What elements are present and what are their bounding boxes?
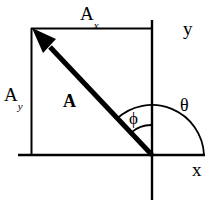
label-x-axis: x bbox=[192, 160, 202, 179]
label-component-x-base: A bbox=[80, 3, 94, 24]
label-component-y-subscript: y bbox=[18, 100, 23, 112]
label-component-y: Ay bbox=[4, 85, 23, 108]
label-y-axis: y bbox=[183, 19, 193, 38]
vector-diagram: Ax Ay A y x ϕ θ bbox=[0, 0, 218, 200]
label-vector-a: A bbox=[63, 92, 76, 110]
label-component-y-base: A bbox=[4, 84, 18, 105]
label-component-x-subscript: x bbox=[94, 19, 99, 31]
label-angle-theta: θ bbox=[180, 96, 189, 114]
label-angle-phi: ϕ bbox=[129, 110, 138, 127]
label-component-x: Ax bbox=[80, 4, 99, 27]
